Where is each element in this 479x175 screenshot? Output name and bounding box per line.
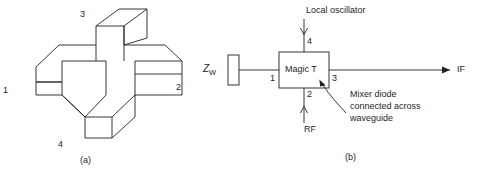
- panel-a-port-2-label: 2: [176, 82, 181, 94]
- figure-magic-tee-mixer: 1 2 3 4 (a) ZW Magic T 1 2 3 4 Local osc…: [0, 0, 479, 175]
- local-oscillator-label: Local oscillator: [306, 5, 366, 17]
- impedance-subscript: W: [209, 68, 216, 77]
- waveguide-impedance-label: ZW: [203, 63, 216, 78]
- if-label: IF: [457, 64, 465, 76]
- panel-b-caption: (b): [345, 152, 356, 164]
- termination-rect: [228, 55, 239, 85]
- mixer-diode-annotation: Mixer diode connected across waveguide: [350, 89, 421, 125]
- panel-a-port-1-label: 1: [3, 85, 8, 97]
- rf-label: RF: [304, 124, 316, 136]
- panel-b-port-3-label: 3: [332, 73, 337, 85]
- figure-vector-artwork: [0, 0, 479, 175]
- annotation-line-3: waveguide: [350, 113, 421, 125]
- magic-t-box-label: Magic T: [285, 64, 317, 76]
- panel-a-waveguide-solid: [36, 9, 182, 138]
- panel-b-port-1-label: 1: [270, 73, 275, 85]
- annotation-leader-curve: [323, 85, 346, 113]
- panel-b-port-4-label: 4: [307, 36, 312, 48]
- annotation-line-2: connected across: [350, 101, 421, 113]
- annotation-line-1: Mixer diode: [350, 89, 421, 101]
- panel-a-caption: (a): [80, 155, 91, 167]
- if-arrowhead: [442, 67, 450, 74]
- panel-a-port-3-label: 3: [80, 9, 85, 21]
- panel-b-port-2-label: 2: [307, 89, 312, 101]
- panel-a-port-4-label: 4: [58, 139, 63, 151]
